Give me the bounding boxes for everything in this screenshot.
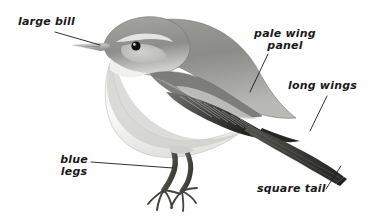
leader-line-large-bill bbox=[55, 32, 100, 45]
annotation-large-bill: large bill bbox=[18, 16, 75, 28]
bird-bill bbox=[72, 43, 110, 51]
bird-anatomy-figure: large bill pale wing panel long wings bl… bbox=[0, 0, 387, 224]
bird-eye bbox=[131, 41, 140, 50]
annotation-pale-wing-panel: pale wing panel bbox=[249, 28, 321, 51]
bird-illustration bbox=[0, 0, 387, 224]
annotation-square-tail: square tail bbox=[257, 183, 326, 195]
annotation-blue-legs: blue legs bbox=[59, 154, 89, 177]
leader-line-long-wings bbox=[310, 96, 327, 131]
leader-line-blue-legs bbox=[91, 162, 173, 168]
annotation-long-wings: long wings bbox=[288, 80, 357, 92]
bird-tail bbox=[244, 126, 344, 184]
